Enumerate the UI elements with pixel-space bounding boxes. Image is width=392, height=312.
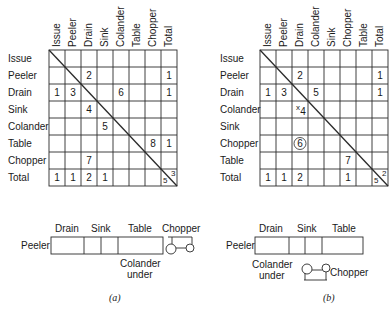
layout-label-colander: Colander bbox=[252, 260, 293, 270]
layout-label-chopper: Chopper bbox=[330, 268, 368, 278]
layout-label-sink: Sink bbox=[297, 224, 316, 234]
layout-label-peeler: Peeler bbox=[226, 241, 255, 251]
layout-label-drain: Drain bbox=[259, 224, 283, 234]
layout-label-under: under bbox=[259, 271, 285, 281]
caption-b: (b) bbox=[323, 292, 335, 303]
layout-label-table: Table bbox=[332, 224, 356, 234]
layout-b-drawing bbox=[0, 0, 392, 312]
